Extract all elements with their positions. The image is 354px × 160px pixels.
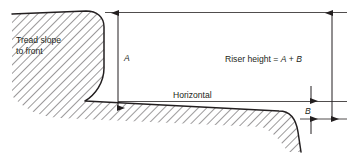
riser-height-formula: Riser height = A + B bbox=[225, 54, 302, 64]
tread-slope-label-line2: to front bbox=[16, 46, 43, 56]
dimension-b-label: B bbox=[305, 106, 311, 116]
horizontal-label: Horizontal bbox=[173, 90, 212, 100]
material-body bbox=[12, 11, 301, 152]
riser-formula-prefix: Riser height = bbox=[225, 54, 281, 64]
riser-formula-plus: + bbox=[286, 54, 296, 64]
tread-slope-label-line1: Tread slope bbox=[16, 35, 61, 45]
diagram-canvas: A B Tread slope to front Horizontal Rise… bbox=[0, 0, 354, 160]
svg-text:Riser height = A + B: Riser height = A + B bbox=[225, 54, 302, 64]
dimension-a-label: A bbox=[123, 53, 130, 63]
material-hatched-fill bbox=[12, 11, 301, 152]
dimension-a-group: A bbox=[118, 13, 130, 108]
stair-riser-cross-section-svg: A B Tread slope to front Horizontal Rise… bbox=[0, 0, 354, 160]
riser-formula-b: B bbox=[296, 54, 302, 64]
dimension-b-group: B bbox=[305, 86, 311, 134]
